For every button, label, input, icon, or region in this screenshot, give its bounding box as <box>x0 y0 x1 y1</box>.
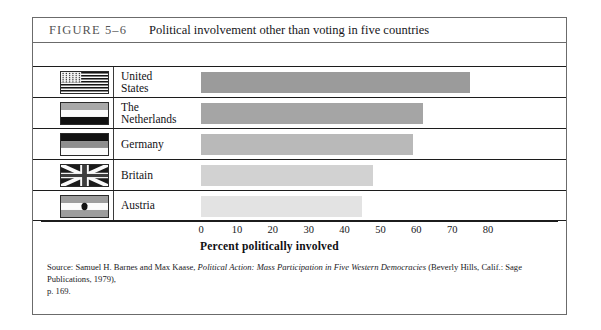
axis-baseline <box>41 221 558 222</box>
country-label: UnitedStates <box>121 67 152 97</box>
figure-title-bar: FIGURE 5–6 Political involvement other t… <box>33 18 566 43</box>
country-label-line1: Austria <box>121 199 155 212</box>
flag-britain-icon <box>60 164 109 187</box>
x-tick-label: 30 <box>303 224 314 235</box>
country-label: TheNetherlands <box>121 98 177 128</box>
label-column-divider <box>113 98 114 128</box>
bar-germany <box>201 134 413 155</box>
source-note: Source: Samuel H. Barnes and Max Kaase, … <box>47 261 554 297</box>
chart-row: Austria <box>33 190 566 221</box>
figure-title: Political involvement other than voting … <box>149 23 429 38</box>
flag-netherlands-icon <box>60 102 109 125</box>
label-column-divider <box>113 67 114 97</box>
chart-area: UnitedStatesTheNetherlandsGermanyBritain… <box>33 43 566 239</box>
source-prefix: Source: Samuel H. Barnes and Max Kaase, <box>47 262 198 272</box>
x-tick-label: 70 <box>447 224 458 235</box>
label-column-divider <box>113 191 114 220</box>
country-label-line2: States <box>121 82 152 95</box>
x-tick-label: 50 <box>375 224 386 235</box>
chart-row: TheNetherlands <box>33 97 566 128</box>
x-tick-label: 0 <box>198 224 203 235</box>
chart-x-axis: 01020304050607080 Percent politically in… <box>33 221 566 222</box>
figure-box: FIGURE 5–6 Political involvement other t… <box>32 17 567 315</box>
country-label-line2: Netherlands <box>121 113 177 126</box>
x-tick-label: 20 <box>268 224 279 235</box>
country-label-line1: Germany <box>121 138 164 151</box>
label-column-divider <box>113 129 114 159</box>
country-label-line1: The <box>121 101 177 114</box>
chart-rows: UnitedStatesTheNetherlandsGermanyBritain… <box>33 66 566 221</box>
bar-united-states <box>201 72 470 93</box>
country-label-line1: United <box>121 70 152 83</box>
flag-austria-icon <box>60 195 109 218</box>
x-tick-label: 60 <box>411 224 422 235</box>
source-work-title: Political Action: Mass Participation in … <box>198 262 426 272</box>
chart-row: Britain <box>33 159 566 190</box>
chart-row: UnitedStates <box>33 66 566 97</box>
label-column-divider <box>113 160 114 190</box>
axis-title-text: Percent politically involved <box>200 240 339 252</box>
country-label: Britain <box>121 160 153 190</box>
flag-united-states-icon <box>60 71 109 94</box>
bar-britain <box>201 165 373 186</box>
country-label: Germany <box>121 129 164 159</box>
axis-title: Percent politically involved <box>33 240 566 252</box>
country-label: Austria <box>121 191 155 220</box>
bar-netherlands <box>201 103 423 124</box>
source-page: p. 169. <box>47 286 71 296</box>
bar-austria <box>201 196 362 217</box>
figure-number: FIGURE 5–6 <box>49 23 127 38</box>
x-tick-label: 80 <box>483 224 494 235</box>
country-label-line1: Britain <box>121 169 153 182</box>
x-tick-label: 10 <box>232 224 243 235</box>
chart-row: Germany <box>33 128 566 159</box>
flag-germany-icon <box>60 133 109 156</box>
x-tick-label: 40 <box>339 224 350 235</box>
